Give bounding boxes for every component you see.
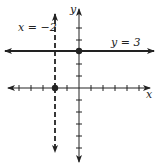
- x-axis-label: x: [146, 89, 152, 100]
- point-0-3: [76, 48, 82, 54]
- label-x-equals-neg2: x = −2: [18, 22, 57, 33]
- point-neg2-0: [52, 85, 58, 91]
- y-axis-label: y: [70, 4, 76, 15]
- label-y-equals-3: y = 3: [111, 37, 140, 48]
- y-axis: [76, 9, 82, 162]
